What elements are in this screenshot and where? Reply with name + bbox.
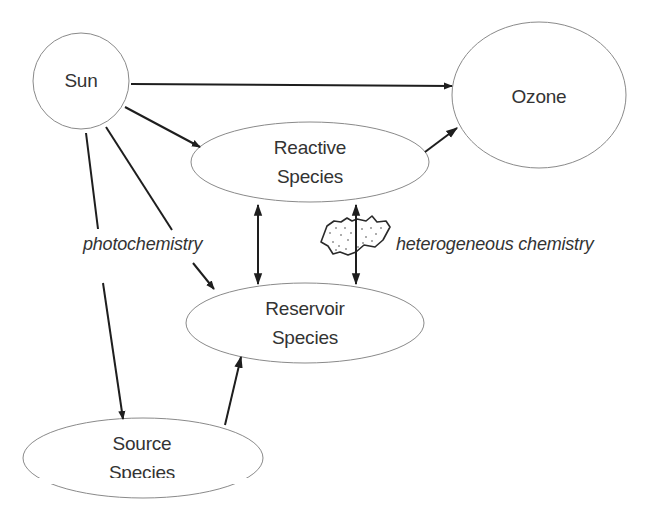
edge-source-to-reservoir <box>225 357 241 425</box>
reservoir-label-line1: Reservoir <box>245 294 365 323</box>
reactive-label-line2: Species <box>250 162 370 191</box>
reactive-species-label: Reactive Species <box>250 133 370 191</box>
edge-sun-to-source-upper <box>86 133 98 229</box>
edge-reactive-to-ozone <box>425 128 457 152</box>
scan-cut-strip <box>0 478 661 484</box>
sun-label: Sun <box>41 66 121 95</box>
photochemistry-label: photochemistry <box>83 234 202 255</box>
reservoir-species-label: Reservoir Species <box>245 294 365 352</box>
edge-sun-to-reservoir-upper <box>106 127 172 230</box>
edge-sun-to-reactive <box>125 107 200 147</box>
reservoir-label-line2: Species <box>245 323 365 352</box>
heterogeneous-chemistry-label: heterogeneous chemistry <box>396 234 594 255</box>
edge-sun-to-ozone <box>131 84 452 86</box>
edge-sun-to-source-lower <box>103 283 123 419</box>
ozone-label: Ozone <box>489 82 589 111</box>
reactive-label-line1: Reactive <box>250 133 370 162</box>
edge-sun-to-reservoir-lower <box>193 263 214 289</box>
source-label-line1: Source <box>82 429 202 458</box>
